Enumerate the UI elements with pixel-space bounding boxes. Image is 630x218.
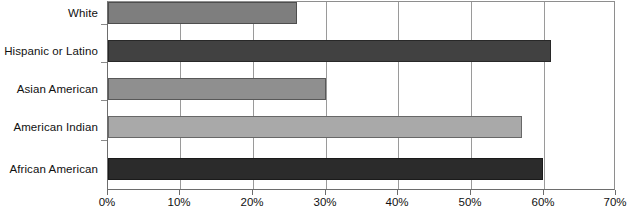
category-axis-labels: White Hispanic or Latino Asian American … [0, 0, 103, 190]
bar-chart: White Hispanic or Latino Asian American … [0, 0, 630, 218]
bar-american-indian[interactable] [108, 116, 522, 138]
x-axis: 0% 10% 20% 30% 40% 50% 60% 70% [107, 190, 616, 218]
x-axis-label-40: 40% [385, 196, 408, 208]
x-axis-label-0: 0% [99, 196, 116, 208]
bar-african-american[interactable] [108, 158, 543, 180]
x-axis-label-10: 10% [167, 196, 190, 208]
x-axis-tick-0 [107, 190, 108, 195]
x-axis-label-20: 20% [240, 196, 263, 208]
category-label-american-indian: American Indian [13, 116, 98, 138]
x-axis-label-50: 50% [458, 196, 481, 208]
bar-white[interactable] [108, 2, 297, 24]
x-axis-label-30: 30% [313, 196, 336, 208]
bar-asian-american[interactable] [108, 78, 326, 100]
category-label-african-american: African American [9, 158, 98, 180]
x-axis-tick-60 [543, 190, 544, 195]
category-label-hispanic-or-latino: Hispanic or Latino [4, 40, 98, 62]
category-label-asian-american: Asian American [17, 78, 98, 100]
x-axis-label-70: 70% [603, 196, 626, 208]
x-axis-tick-40 [397, 190, 398, 195]
x-axis-tick-50 [470, 190, 471, 195]
x-axis-label-60: 60% [531, 196, 554, 208]
x-axis-tick-30 [325, 190, 326, 195]
x-axis-tick-70 [615, 190, 616, 195]
category-label-white: White [68, 2, 98, 24]
x-axis-tick-10 [179, 190, 180, 195]
bars-layer [108, 2, 614, 189]
x-axis-tick-20 [252, 190, 253, 195]
plot-area [107, 1, 615, 190]
bar-hispanic-or-latino[interactable] [108, 40, 551, 62]
